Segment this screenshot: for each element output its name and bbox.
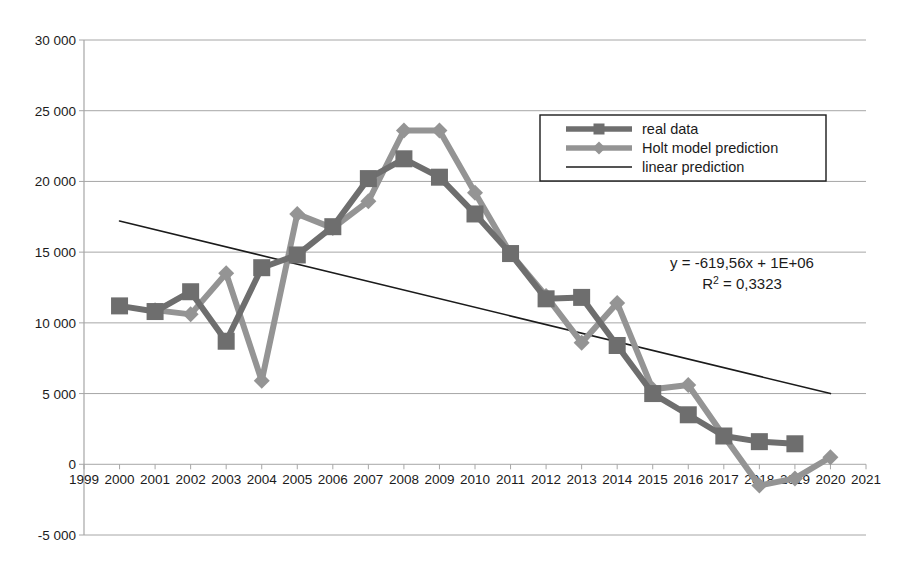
chart-container: -5 00005 00010 00015 00020 00025 00030 0…: [0, 0, 901, 573]
data-point-marker: [467, 205, 484, 222]
equation-line: y = -619,56x + 1E+06: [670, 254, 814, 271]
x-tick-label: 2016: [673, 472, 703, 487]
legend-label: real data: [642, 121, 699, 137]
y-tick-label: 20 000: [35, 174, 76, 189]
y-tick-label: 15 000: [35, 245, 76, 260]
chart-legend: real dataHolt model predictionlinear pre…: [540, 115, 826, 181]
y-tick-label: 25 000: [35, 104, 76, 119]
data-point-marker: [360, 170, 377, 187]
data-point-marker: [538, 290, 555, 307]
data-point-marker: [644, 385, 661, 402]
x-tick-label: 2001: [140, 472, 170, 487]
x-tick-label: 2008: [389, 472, 419, 487]
y-tick-label: -5 000: [38, 528, 76, 543]
x-tick-label: 2005: [282, 472, 312, 487]
data-point-marker: [609, 337, 626, 354]
x-tick-label: 2013: [567, 472, 597, 487]
legend-label: Holt model prediction: [642, 140, 778, 156]
y-tick-label: 10 000: [35, 316, 76, 331]
x-tick-label: 2003: [211, 472, 241, 487]
data-point-marker: [147, 303, 164, 320]
data-point-marker: [111, 297, 128, 314]
y-tick-label: 30 000: [35, 33, 76, 48]
chart-plot: -5 00005 00010 00015 00020 00025 00030 0…: [0, 0, 901, 573]
data-point-marker: [431, 169, 448, 186]
x-tick-label: 2010: [460, 472, 490, 487]
x-tick-label: 2000: [105, 472, 135, 487]
x-tick-label: 2004: [247, 472, 278, 487]
data-point-marker: [324, 218, 341, 235]
data-point-marker: [218, 333, 235, 350]
data-point-marker: [786, 435, 803, 452]
x-tick-label: 2002: [176, 472, 206, 487]
x-tick-label: 2014: [602, 472, 633, 487]
data-point-marker: [289, 246, 306, 263]
y-tick-label: 5 000: [42, 387, 76, 402]
data-point-marker: [594, 124, 605, 135]
data-point-marker: [182, 283, 199, 300]
x-tick-label: 2015: [638, 472, 668, 487]
x-tick-label: 2012: [531, 472, 561, 487]
data-point-marker: [502, 245, 519, 262]
x-tick-label: 2021: [851, 472, 881, 487]
data-point-marker: [573, 289, 590, 306]
data-point-marker: [751, 433, 768, 450]
x-tick-label: 2006: [318, 472, 348, 487]
x-tick-label: 2007: [353, 472, 383, 487]
x-tick-label: 2020: [815, 472, 845, 487]
data-point-marker: [680, 406, 697, 423]
x-tick-label: 2009: [424, 472, 454, 487]
x-tick-label: 2011: [496, 472, 525, 487]
x-tick-label: 1999: [69, 472, 99, 487]
data-point-marker: [715, 428, 732, 445]
data-point-marker: [253, 259, 270, 276]
data-point-marker: [395, 150, 412, 167]
legend-label: linear prediction: [642, 159, 744, 175]
x-tick-label: 2017: [709, 472, 739, 487]
y-tick-label: 0: [68, 457, 76, 472]
